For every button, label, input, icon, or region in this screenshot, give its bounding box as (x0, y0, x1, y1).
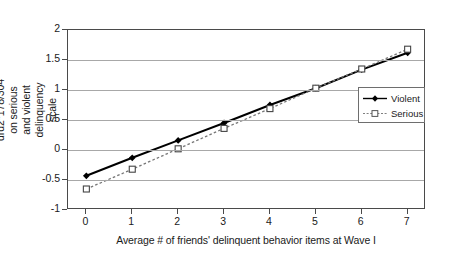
y-tick-label: -0.5 (34, 172, 60, 184)
y-tick-label: -1 (34, 202, 60, 214)
y-tick-label: 0.5 (34, 112, 60, 124)
legend-key-violent-icon (362, 93, 388, 104)
gridline (68, 150, 424, 151)
x-tick-label: 2 (165, 215, 189, 227)
y-tick-label: 0 (34, 142, 60, 154)
chart-legend: Violent Serious (358, 87, 425, 123)
x-axis-title: Average # of friends' delinquent behavio… (67, 234, 425, 246)
x-tick-label: 6 (349, 215, 373, 227)
legend-label-serious: Serious (388, 108, 423, 119)
x-tick-mark (85, 209, 86, 214)
data-marker-serious (405, 46, 411, 52)
x-tick-mark (177, 209, 178, 214)
gridline (68, 60, 424, 61)
x-tick-label: 7 (395, 215, 419, 227)
x-tick-mark (269, 209, 270, 214)
data-marker-violent (129, 154, 136, 161)
data-marker-serious (83, 186, 89, 192)
data-marker-serious (129, 166, 135, 172)
x-tick-mark (361, 209, 362, 214)
chart-container: Effect of drd2*178/304 on serious and vi… (0, 0, 453, 258)
data-marker-violent (175, 137, 182, 144)
y-tick-label: 2 (34, 22, 60, 34)
gridline (68, 180, 424, 181)
x-tick-mark (131, 209, 132, 214)
x-tick-label: 5 (303, 215, 327, 227)
legend-key-serious-icon (362, 108, 388, 119)
legend-item-serious: Serious (362, 106, 421, 121)
x-tick-label: 4 (257, 215, 281, 227)
x-tick-label: 1 (119, 215, 143, 227)
data-marker-violent (83, 172, 90, 179)
x-tick-label: 3 (211, 215, 235, 227)
x-tick-label: 0 (73, 215, 97, 227)
y-tick-label: 1 (34, 82, 60, 94)
y-tick-label: 1.5 (34, 52, 60, 64)
y-tick-mark (62, 209, 67, 210)
legend-label-violent: Violent (388, 93, 420, 104)
data-marker-serious (221, 125, 227, 131)
x-tick-mark (223, 209, 224, 214)
legend-item-violent: Violent (362, 91, 421, 106)
data-marker-serious (359, 66, 365, 72)
x-tick-mark (407, 209, 408, 214)
x-tick-mark (315, 209, 316, 214)
data-marker-serious (267, 106, 273, 112)
